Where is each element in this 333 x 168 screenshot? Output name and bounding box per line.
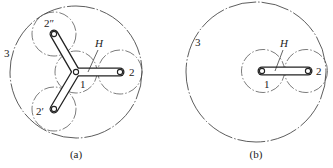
pivot-2-double-prime [51,31,56,36]
planetary-gear-diagrams: 3 1 2 2″ 2′ H (a) 3 1 2 H (b) [0,0,333,168]
caption-b: (b) [250,148,263,161]
pivot-1-b [259,68,264,73]
label-sun-1-a: 1 [80,78,86,90]
pivot-2-b [305,68,310,73]
label-planet-2-double-prime: 2″ [44,17,54,29]
label-ring-3-a: 3 [4,47,10,59]
figure-b: 3 1 2 H (b) [186,2,328,161]
label-carrier-h-a: H [94,37,104,49]
pivot-1-a [73,69,78,74]
label-sun-1-b: 1 [264,78,270,90]
caption-a: (a) [70,148,83,161]
pivot-2-a [117,69,122,74]
carrier-h-a [54,34,120,109]
label-planet-2-prime: 2′ [36,105,44,117]
label-planet-2-a: 2 [129,66,135,78]
label-ring-3-b: 3 [195,36,201,48]
pivot-2-prime [51,106,56,111]
label-carrier-h-b: H [279,37,289,49]
figure-a: 3 1 2 2″ 2′ H (a) [4,6,142,161]
label-planet-2-b: 2 [316,65,322,77]
